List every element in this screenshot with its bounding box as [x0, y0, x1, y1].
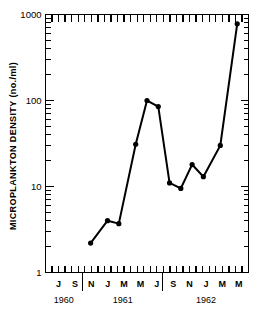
- x-tick-label: M: [235, 279, 243, 289]
- y-tick-label: 100: [26, 95, 42, 106]
- series-line-path: [91, 24, 238, 243]
- data-point-marker: [178, 186, 183, 191]
- data-point-marker: [201, 174, 206, 179]
- x-axis-tick-labels: JSNJMMJSNJMM: [56, 279, 242, 289]
- x-tick-label: N: [186, 279, 193, 289]
- data-point-marker: [105, 218, 110, 223]
- data-point-marker: [156, 104, 161, 109]
- year-label: 1961: [113, 295, 133, 305]
- x-tick-label: S: [72, 279, 78, 289]
- y-tick-label: 1: [36, 267, 41, 278]
- x-tick-label: M: [137, 279, 145, 289]
- data-point-marker: [116, 221, 121, 226]
- data-series: [88, 21, 240, 245]
- x-tick-label: J: [105, 279, 110, 289]
- x-tick-label: N: [88, 279, 95, 289]
- x-tick-label: J: [56, 279, 61, 289]
- data-point-marker: [218, 143, 223, 148]
- plot-frame-path: [46, 15, 249, 273]
- data-point-marker: [167, 180, 172, 185]
- y-axis-title-text: MICROPLANKTON DENSITY (no./ml): [8, 62, 18, 230]
- y-axis-ticks: [46, 15, 249, 273]
- y-tick-label: 1000: [20, 9, 41, 20]
- microplankton-density-line-chart: MICROPLANKTON DENSITY (no./ml) 100010010…: [0, 0, 265, 312]
- data-point-marker: [144, 98, 149, 103]
- data-point-marker: [88, 240, 93, 245]
- x-tick-label: J: [154, 279, 159, 289]
- y-tick-label: 10: [31, 181, 42, 192]
- chart-figure: MICROPLANKTON DENSITY (no./ml) 100010010…: [0, 0, 265, 312]
- data-point-marker: [235, 21, 240, 26]
- x-tick-label: J: [203, 279, 208, 289]
- data-point-marker: [133, 142, 138, 147]
- y-axis-title: MICROPLANKTON DENSITY (no./ml): [8, 62, 18, 230]
- series-markers: [88, 21, 240, 245]
- year-group-labels: 196019611962: [54, 295, 216, 305]
- x-tick-label: M: [219, 279, 227, 289]
- year-label: 1962: [196, 295, 216, 305]
- x-axis-ticks: [52, 15, 242, 273]
- x-tick-label: S: [170, 279, 176, 289]
- y-axis-tick-labels: 1000100101: [20, 9, 41, 278]
- year-label: 1960: [54, 295, 74, 305]
- plot-frame: [46, 15, 249, 273]
- data-point-marker: [190, 162, 195, 167]
- x-tick-label: M: [120, 279, 128, 289]
